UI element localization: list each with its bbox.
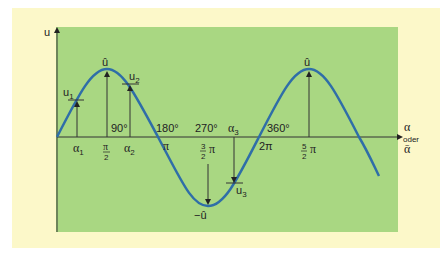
rad-pi: π	[163, 139, 169, 153]
sine-diagram: u α oder ᾱ u1 û u2 u3 −û û 90° 180° 270°…	[0, 0, 448, 255]
second-peak-label: û	[304, 56, 310, 68]
svg-text:3: 3	[201, 142, 206, 151]
svg-text:2: 2	[104, 153, 109, 162]
deg-270: 270°	[195, 122, 218, 134]
u1-label: u1	[63, 86, 74, 101]
svg-text:2: 2	[201, 152, 206, 161]
x-axis-label-alpha: α	[404, 120, 411, 134]
u3-label: u3	[236, 184, 247, 199]
u2-label: u2	[129, 70, 140, 85]
rad-pi-half: π 2	[103, 141, 110, 162]
svg-text:π: π	[310, 142, 316, 156]
alpha1-label: α1	[73, 141, 84, 157]
svg-text:5: 5	[302, 142, 307, 151]
svg-text:π: π	[103, 141, 108, 152]
deg-90: 90°	[111, 122, 128, 134]
x-axis-label-alpha-bar: ᾱ	[404, 142, 411, 156]
rad-three-half-pi: 3 2 π	[200, 142, 215, 161]
alpha3-label: α3	[228, 121, 239, 137]
deg-180: 180°	[156, 122, 179, 134]
svg-text:2: 2	[302, 152, 307, 161]
y-axis-label: u	[44, 26, 50, 38]
deg-360: 360°	[267, 122, 290, 134]
svg-text:π: π	[209, 142, 215, 156]
rad-five-half-pi: 5 2 π	[301, 142, 316, 161]
peak-label: û	[102, 56, 108, 68]
trough-label: −û	[194, 209, 207, 221]
rad-two-pi: 2π	[259, 140, 273, 152]
alpha2-label: α2	[124, 141, 135, 157]
